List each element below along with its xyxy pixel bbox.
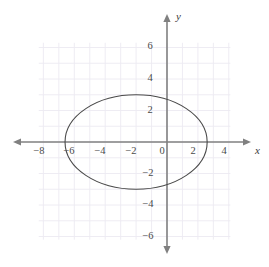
- coordinate-plane-svg: [0, 0, 269, 267]
- x-tick-label: −4: [92, 146, 108, 157]
- y-axis-label: y: [176, 11, 181, 22]
- y-tick-label: 6: [143, 41, 157, 52]
- x-axis-arrow-left: [13, 138, 21, 145]
- x-tick-label: 4: [217, 146, 231, 157]
- y-axis-arrow-down: [163, 246, 170, 254]
- x-axis-arrow-right: [243, 138, 251, 145]
- axes: [13, 14, 251, 254]
- x-tick-label: −2: [123, 146, 139, 157]
- x-tick-label: −8: [31, 146, 47, 157]
- x-tick-label: 2: [186, 146, 200, 157]
- y-tick-label: −2: [139, 168, 157, 179]
- x-axis-label: x: [255, 145, 260, 156]
- y-tick-label: 4: [143, 73, 157, 84]
- y-tick-label: −4: [139, 199, 157, 210]
- y-tick-label: −6: [139, 231, 157, 242]
- y-tick-label: 2: [143, 105, 157, 116]
- x-tick-label: 0: [155, 146, 169, 157]
- graph-figure: −8 −6 −4 −2 0 2 4 6 4 2 −2 −4 −6 x y: [0, 0, 269, 267]
- x-tick-label: −6: [61, 146, 77, 157]
- y-axis-arrow-up: [163, 14, 170, 22]
